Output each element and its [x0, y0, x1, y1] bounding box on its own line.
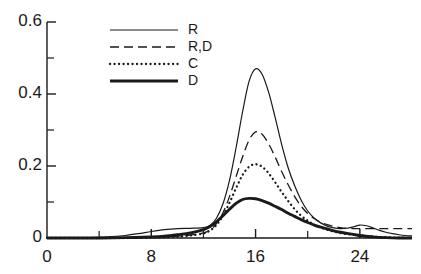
legend-label-r: R	[188, 21, 198, 37]
chart-figure: 00.20.40.6 081624 RR,DCD	[0, 0, 421, 274]
x-tick-label: 16	[236, 247, 276, 267]
y-tick-label: 0.6	[0, 11, 42, 31]
y-axis-ticks	[47, 22, 56, 202]
x-tick-label: 8	[131, 247, 171, 267]
chart-series-group	[47, 69, 412, 239]
y-tick-label: 0	[0, 227, 42, 247]
legend-label-d: D	[188, 72, 198, 88]
x-tick-label: 0	[27, 247, 67, 267]
legend-sample-lines	[110, 30, 178, 81]
legend-label-c: C	[188, 55, 198, 71]
series-line-c	[47, 164, 412, 238]
y-tick-label: 0.4	[0, 83, 42, 103]
x-tick-label: 24	[340, 247, 380, 267]
chart-axes	[47, 22, 412, 238]
series-line-r	[47, 69, 412, 239]
series-line-d	[47, 198, 412, 238]
series-line-r-d	[47, 132, 412, 239]
y-tick-label: 0.2	[0, 155, 42, 175]
legend-label-r-d: R,D	[188, 38, 212, 54]
